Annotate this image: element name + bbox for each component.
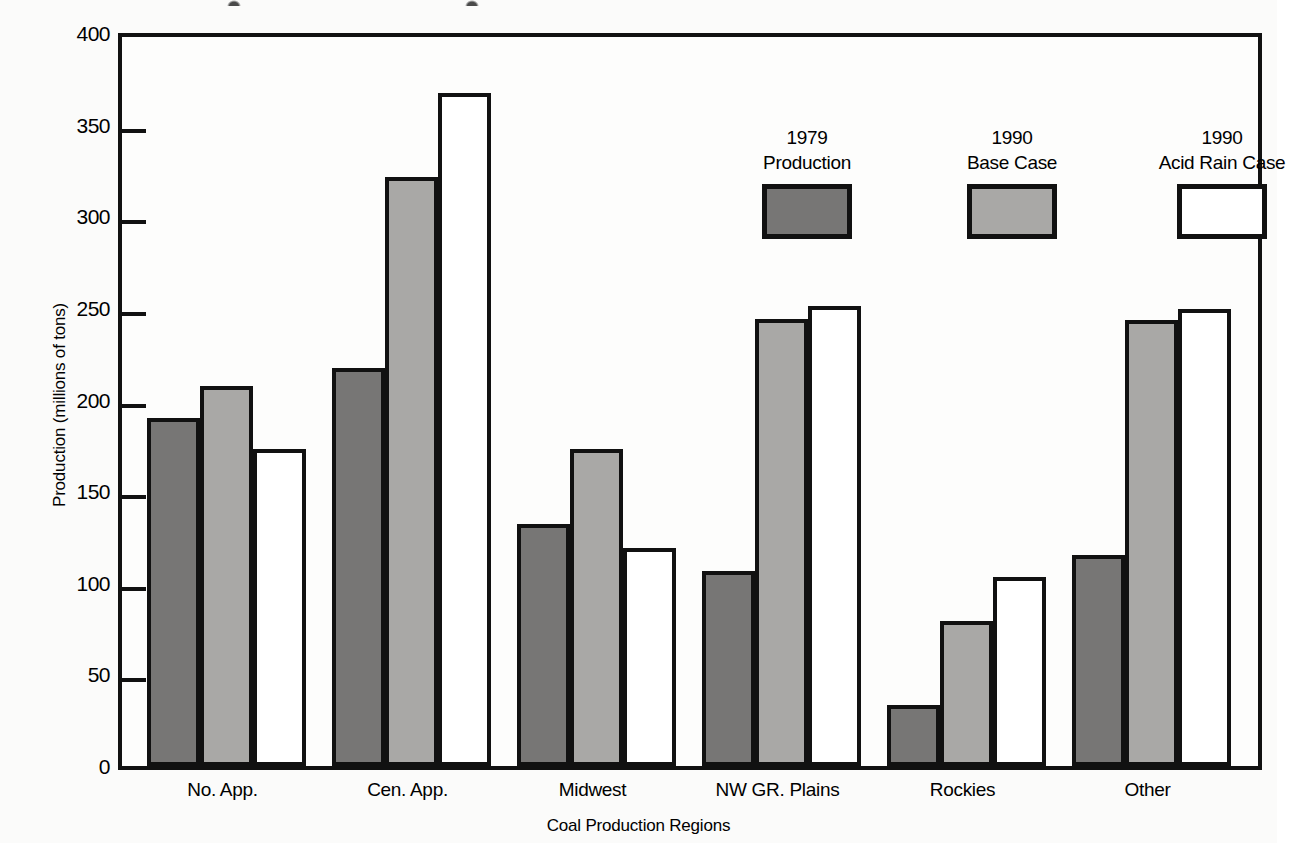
y-tick-label: 300 bbox=[40, 206, 110, 227]
legend-item-1990-base-case[interactable]: 1990 Base Case bbox=[912, 125, 1112, 239]
y-tick-label: 50 bbox=[40, 664, 110, 685]
bar bbox=[332, 368, 385, 766]
legend-label-line1: 1979 bbox=[707, 125, 907, 150]
legend-swatch-1979-production bbox=[762, 184, 852, 239]
bar bbox=[385, 177, 438, 766]
y-tick-label: 150 bbox=[40, 481, 110, 502]
x-axis-title: Coal Production Regions bbox=[0, 816, 1277, 836]
bar bbox=[1178, 309, 1231, 766]
legend-label-line2: Base Case bbox=[912, 150, 1112, 175]
bar bbox=[993, 577, 1046, 766]
y-tick-label: 350 bbox=[40, 115, 110, 136]
x-tick-label: Other bbox=[1038, 779, 1258, 801]
y-tick-mark bbox=[122, 404, 146, 408]
bar bbox=[702, 571, 755, 766]
bar bbox=[147, 418, 200, 767]
legend-swatch-1990-base-case bbox=[967, 184, 1057, 239]
bar bbox=[623, 548, 676, 766]
y-tick-label: 0 bbox=[40, 756, 110, 777]
bar bbox=[253, 449, 306, 766]
bar bbox=[755, 319, 808, 766]
y-axis-tick-labels: 050100150200250300350400 bbox=[28, 0, 110, 843]
y-tick-label: 200 bbox=[40, 390, 110, 411]
bar bbox=[200, 386, 253, 766]
legend-label-line2: Acid Rain Case bbox=[1117, 150, 1290, 175]
legend-label-line1: 1990 bbox=[1117, 125, 1290, 150]
plot-area: 1979 Production 1990 Base Case 1990 Acid… bbox=[118, 33, 1262, 770]
y-tick-mark bbox=[122, 495, 146, 499]
y-tick-mark bbox=[122, 587, 146, 591]
bar bbox=[438, 93, 491, 766]
y-tick-mark bbox=[122, 678, 146, 682]
bar bbox=[887, 705, 940, 766]
bar bbox=[808, 306, 861, 766]
bar bbox=[517, 524, 570, 766]
legend-label-line2: Production bbox=[707, 150, 907, 175]
y-tick-label: 100 bbox=[40, 573, 110, 594]
crop-artifact-mark bbox=[227, 0, 241, 6]
y-tick-mark bbox=[122, 129, 146, 133]
bar bbox=[1125, 320, 1178, 766]
crop-artifact-mark bbox=[465, 0, 479, 6]
legend-item-1990-acid-rain-case[interactable]: 1990 Acid Rain Case bbox=[1117, 125, 1290, 239]
y-tick-label: 400 bbox=[40, 23, 110, 44]
bar bbox=[940, 621, 993, 766]
bar bbox=[570, 449, 623, 766]
legend-label-line1: 1990 bbox=[912, 125, 1112, 150]
y-tick-mark bbox=[122, 312, 146, 316]
bar bbox=[1072, 555, 1125, 766]
y-tick-mark bbox=[122, 220, 146, 224]
legend-item-1979-production[interactable]: 1979 Production bbox=[707, 125, 907, 239]
y-tick-label: 250 bbox=[40, 298, 110, 319]
legend-swatch-1990-acid-rain-case bbox=[1177, 184, 1267, 239]
